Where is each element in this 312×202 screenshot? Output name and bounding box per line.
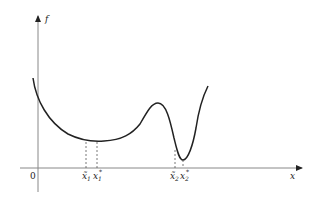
x-tilde-2-label: x̃2 xyxy=(170,171,179,182)
x-axis-label: x xyxy=(290,171,295,181)
origin-label: 0 xyxy=(30,171,36,181)
x-star-2-label: x2* xyxy=(180,168,189,182)
function-curve xyxy=(33,78,208,160)
x-star-1-label: x1* xyxy=(93,168,102,182)
function-diagram: f x 0 x̃1 x1* x̃2 x2* xyxy=(0,0,312,202)
y-axis-label: f xyxy=(44,14,50,24)
x-tilde-1-label: x̃1 xyxy=(82,171,91,182)
